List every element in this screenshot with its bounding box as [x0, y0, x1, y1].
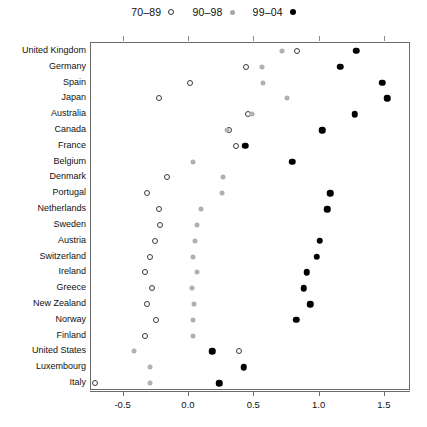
x-axis-tick: [319, 391, 320, 396]
y-axis-label-italy: Italy: [0, 378, 86, 387]
x-axis-tick-label: 1.5: [377, 399, 390, 410]
x-axis-tick: [384, 391, 385, 396]
data-point: [379, 79, 386, 86]
data-point: [261, 80, 266, 85]
y-axis-label-belgium: Belgium: [0, 156, 86, 165]
data-point: [194, 270, 199, 275]
y-axis-label-ireland: Ireland: [0, 267, 86, 276]
data-point: [149, 285, 155, 291]
data-point: [190, 333, 195, 338]
y-axis-label-germany: Germany: [0, 61, 86, 70]
data-point: [190, 317, 195, 322]
data-point: [337, 63, 344, 70]
data-point: [242, 143, 249, 150]
data-point: [249, 112, 254, 117]
y-axis-label-luxembourg: Luxembourg: [0, 362, 86, 371]
data-point: [219, 191, 224, 196]
y-axis-label-greece: Greece: [0, 283, 86, 292]
data-point: [327, 190, 334, 197]
legend-label-90-98: 90–98: [192, 6, 222, 18]
y-axis-label-finland: Finland: [0, 330, 86, 339]
data-point: [236, 348, 242, 354]
data-point: [156, 206, 162, 212]
legend-marker-gray-circle-icon: [230, 10, 235, 15]
top-axis-tick: [319, 36, 320, 41]
data-point: [156, 95, 162, 101]
x-axis-tick-label: 1.0: [312, 399, 325, 410]
data-point: [260, 64, 265, 69]
data-point: [194, 222, 199, 227]
data-point: [352, 111, 359, 118]
legend-marker-black-circle-icon: [290, 9, 296, 15]
data-point: [279, 48, 284, 53]
y-axis-label-australia: Australia: [0, 109, 86, 118]
x-axis-tick: [253, 391, 254, 396]
data-point: [193, 238, 198, 243]
x-axis-tick: [123, 391, 124, 396]
data-point: [198, 207, 203, 212]
y-axis-label-austria: Austria: [0, 235, 86, 244]
y-axis-label-canada: Canada: [0, 125, 86, 134]
data-point: [319, 127, 326, 134]
y-axis-label-france: France: [0, 140, 86, 149]
data-point: [192, 302, 197, 307]
data-point: [190, 159, 195, 164]
data-point: [220, 175, 225, 180]
data-point: [324, 206, 331, 213]
data-point: [353, 48, 360, 55]
y-axis-label-united-kingdom: United Kingdom: [0, 45, 86, 54]
y-axis-label-japan: Japan: [0, 93, 86, 102]
top-axis-tick: [384, 36, 385, 41]
x-axis: -0.50.00.51.01.5: [90, 391, 410, 427]
data-point: [209, 348, 216, 355]
x-axis-tick: [188, 391, 189, 396]
y-axis-label-switzerland: Switzerland: [0, 251, 86, 260]
top-axis-tick: [188, 36, 189, 41]
data-point: [316, 237, 323, 244]
data-point: [190, 254, 195, 259]
data-point: [147, 254, 153, 260]
data-point: [301, 285, 308, 292]
legend-label-70-89: 70–89: [131, 6, 161, 18]
x-axis-tick-label: -0.5: [114, 399, 130, 410]
y-axis-label-norway: Norway: [0, 314, 86, 323]
data-point: [294, 48, 300, 54]
data-point: [243, 64, 249, 70]
data-point: [314, 253, 321, 260]
data-point: [142, 269, 148, 275]
legend-entry-99-04: 99–04: [253, 6, 296, 18]
data-point: [216, 380, 223, 387]
y-axis-label-netherlands: Netherlands: [0, 204, 86, 213]
y-axis-category-labels: United KingdomGermanySpainJapanAustralia…: [0, 42, 86, 390]
y-axis-label-denmark: Denmark: [0, 172, 86, 181]
scatter-chart-figure: 70–89 90–98 99–04 United KingdomGermanyS…: [0, 0, 427, 427]
data-point: [147, 381, 152, 386]
data-point: [303, 269, 310, 276]
data-point: [189, 286, 194, 291]
x-axis-tick-label: 0.0: [181, 399, 194, 410]
y-axis-label-portugal: Portugal: [0, 188, 86, 197]
data-point: [132, 349, 137, 354]
data-point: [92, 380, 98, 386]
data-point: [144, 190, 150, 196]
y-axis-label-united-states: United States: [0, 346, 86, 355]
data-point: [153, 317, 159, 323]
legend-marker-open-circle-icon: [168, 9, 174, 15]
data-point: [284, 96, 289, 101]
data-point: [152, 238, 158, 244]
x-axis-tick-label: 0.5: [247, 399, 260, 410]
legend-entry-90-98: 90–98: [192, 6, 234, 18]
data-point: [307, 301, 314, 308]
x-axis-line: [90, 391, 410, 392]
data-point: [187, 80, 193, 86]
data-point: [144, 301, 150, 307]
y-axis-label-spain: Spain: [0, 77, 86, 86]
top-axis-tick: [253, 36, 254, 41]
y-axis-label-new-zealand: New Zealand: [0, 299, 86, 308]
plot-area: [90, 42, 410, 390]
data-point: [293, 317, 300, 324]
data-point: [241, 364, 248, 371]
y-axis-label-sweden: Sweden: [0, 219, 86, 228]
data-point: [384, 95, 391, 102]
legend-entry-70-89: 70–89: [131, 6, 174, 18]
